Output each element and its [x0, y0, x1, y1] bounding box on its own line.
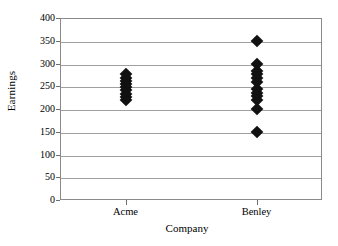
y-tick-label: 100	[40, 150, 55, 160]
gridline	[61, 42, 321, 43]
x-tick-label-benley: Benley	[242, 206, 272, 217]
y-axis-tick-labels: 050100150200250300350400	[0, 0, 60, 200]
plot-area	[60, 18, 322, 200]
y-tick-label: 250	[40, 81, 55, 91]
x-axis-title-label: Company	[130, 222, 209, 234]
gridline	[61, 133, 321, 134]
y-tick-mark	[56, 200, 60, 201]
y-tick-label: 300	[40, 59, 55, 69]
gridline	[61, 178, 321, 179]
y-tick-label: 200	[40, 104, 55, 114]
y-tick-label: 150	[40, 127, 55, 137]
gridline	[61, 65, 321, 66]
gridline	[61, 156, 321, 157]
y-tick-label: 400	[40, 13, 55, 23]
y-tick-label: 0	[50, 195, 55, 205]
gridline	[61, 87, 321, 88]
x-tick-label-acme: Acme	[113, 206, 138, 217]
y-tick-label: 350	[40, 36, 55, 46]
gridline	[61, 110, 321, 111]
x-tick-mark	[126, 200, 127, 205]
y-tick-label: 50	[45, 172, 55, 182]
x-tick-mark	[257, 200, 258, 205]
x-axis-title: Company	[0, 222, 338, 234]
earnings-scatter-chart: Earnings 050100150200250300350400 AcmeBe…	[0, 0, 338, 246]
